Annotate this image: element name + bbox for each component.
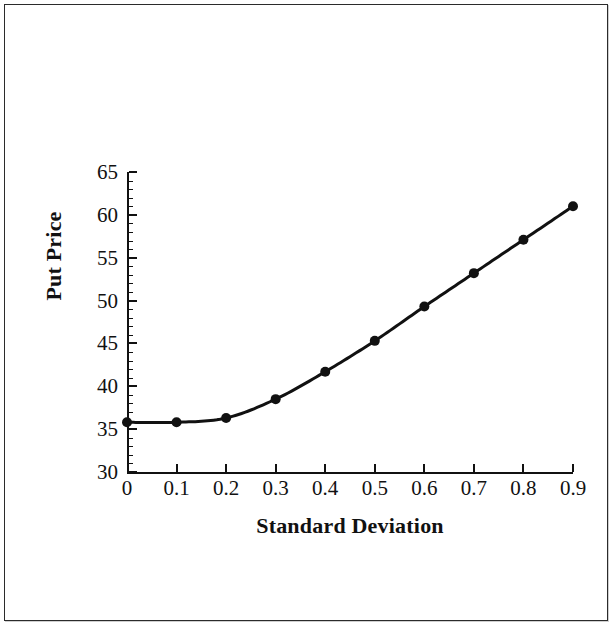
y-tick-label: 50 xyxy=(97,290,118,311)
data-point xyxy=(122,417,132,427)
x-tick-label: 0.4 xyxy=(312,478,338,499)
x-tick-label: 0.2 xyxy=(213,478,239,499)
plot-area: 3035404550556065 00.10.20.30.40.50.60.70… xyxy=(127,172,573,474)
data-series-put-price xyxy=(127,172,573,474)
y-axis-title: Put Price xyxy=(41,176,67,336)
x-tick-label: 0.8 xyxy=(510,478,536,499)
data-point xyxy=(271,394,281,404)
figure-frame: 3035404550556065 00.10.20.30.40.50.60.70… xyxy=(4,4,608,621)
data-point xyxy=(518,235,528,245)
x-tick-label: 0.3 xyxy=(263,478,289,499)
y-tick-label: 40 xyxy=(97,376,118,397)
x-tick-label: 0 xyxy=(122,478,133,499)
data-point xyxy=(419,302,429,312)
y-tick-label: 30 xyxy=(97,462,118,483)
x-tick-label: 0.5 xyxy=(362,478,388,499)
y-tick-label: 55 xyxy=(97,247,118,268)
data-point xyxy=(221,413,231,423)
series-line xyxy=(127,206,573,422)
data-point xyxy=(172,417,182,427)
series-markers xyxy=(122,201,578,427)
y-tick-label: 35 xyxy=(97,419,118,440)
data-point xyxy=(370,336,380,346)
y-tick-label: 45 xyxy=(97,333,118,354)
data-point xyxy=(469,268,479,278)
x-axis-title: Standard Deviation xyxy=(127,513,573,539)
x-tick-label: 0.7 xyxy=(461,478,487,499)
data-point xyxy=(568,201,578,211)
data-point xyxy=(320,367,330,377)
x-tick-label: 0.9 xyxy=(560,478,586,499)
x-tick-label: 0.1 xyxy=(163,478,189,499)
y-tick-label: 60 xyxy=(97,204,118,225)
y-tick-label: 65 xyxy=(97,162,118,183)
x-tick-label: 0.6 xyxy=(411,478,437,499)
